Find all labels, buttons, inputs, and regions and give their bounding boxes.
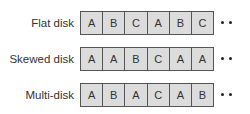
cell: A [81,84,103,106]
dot [221,21,224,24]
cell: A [125,84,147,106]
cell: B [170,12,192,34]
cell: C [148,48,170,70]
ellipsis-icon [221,93,232,96]
cell: A [170,84,192,106]
row-skewed-disk: Skewed disk A A B C A A [0,47,250,71]
dot [229,57,232,60]
ellipsis-icon [221,21,232,24]
cell-strip: A B A C A B [80,83,214,107]
cell: B [192,84,213,106]
cell: A [81,12,103,34]
row-label: Skewed disk [9,47,74,71]
row-label: Flat disk [31,11,74,35]
cell: A [103,48,125,70]
dot [229,21,232,24]
cell: B [103,84,125,106]
cell: B [103,12,125,34]
row-multi-disk: Multi-disk A B A C A B [0,83,250,107]
row-label: Multi-disk [25,83,74,107]
cell: C [148,84,170,106]
cell: A [192,48,213,70]
cell: A [81,48,103,70]
dot [221,57,224,60]
ellipsis-icon [221,57,232,60]
dot [221,93,224,96]
cell: C [192,12,213,34]
cell: A [148,12,170,34]
cell: B [125,48,147,70]
cell-strip: A A B C A A [80,47,214,71]
dot [229,93,232,96]
row-flat-disk: Flat disk A B C A B C [0,11,250,35]
cell-strip: A B C A B C [80,11,214,35]
cell: C [125,12,147,34]
cell: A [170,48,192,70]
